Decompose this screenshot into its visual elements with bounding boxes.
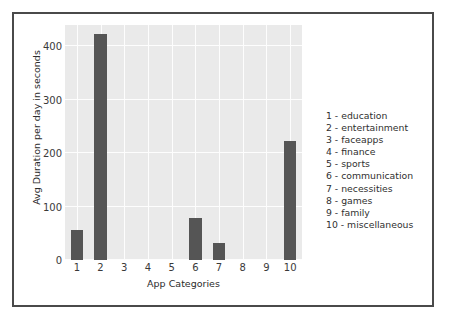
y-axis-tick-label: 100 [43,201,62,212]
gridline-vertical [148,25,149,260]
bar[interactable] [189,218,201,260]
bar[interactable] [213,243,225,260]
figure-frame: Avg Duration per day in seconds 01002003… [12,12,434,307]
legend-entry: 8 - games [326,195,436,207]
x-axis-tick-label: 6 [192,262,198,273]
y-axis-tick-label: 200 [43,148,62,159]
x-axis-title: App Categories [65,278,302,289]
bar[interactable] [284,141,296,260]
legend: 1 - education2 - entertainment3 - faceap… [326,110,436,231]
plot-area [65,25,302,260]
gridline-vertical [172,25,173,260]
gridline-vertical [243,25,244,260]
gridline-vertical [124,25,125,260]
legend-entry: 1 - education [326,110,436,122]
x-axis-tick-label: 10 [284,262,297,273]
bar[interactable] [71,230,83,260]
y-axis-tick-labels: 0100200300400 [32,14,62,309]
legend-entry: 7 - necessities [326,183,436,195]
x-axis-tick-label: 8 [240,262,246,273]
legend-entry: 3 - faceapps [326,134,436,146]
bar-chart: Avg Duration per day in seconds 01002003… [14,14,314,309]
x-axis-tick-label: 5 [168,262,174,273]
y-axis-tick-label: 400 [43,41,62,52]
bar[interactable] [94,34,106,260]
gridline-vertical [77,25,78,260]
legend-entry: 10 - miscellaneous [326,219,436,231]
legend-entry: 6 - communication [326,170,436,182]
legend-entry: 5 - sports [326,158,436,170]
gridline-vertical [266,25,267,260]
x-axis-tick-label: 4 [145,262,151,273]
x-axis-tick-label: 7 [216,262,222,273]
x-axis-tick-label: 1 [74,262,80,273]
x-axis-tick-label: 3 [121,262,127,273]
legend-entry: 4 - finance [326,146,436,158]
y-axis-tick-label: 300 [43,94,62,105]
y-axis-tick-label: 0 [56,255,62,266]
legend-entry: 9 - family [326,207,436,219]
x-axis-tick-label: 9 [263,262,269,273]
gridline-vertical [219,25,220,260]
x-axis-tick-labels: 12345678910 [65,262,302,278]
x-axis-tick-label: 2 [97,262,103,273]
legend-entry: 2 - entertainment [326,122,436,134]
